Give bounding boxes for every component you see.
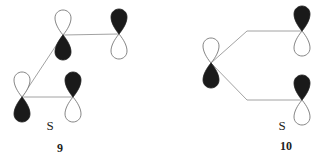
white-lobe-icon	[203, 38, 219, 63]
figure-number-9: 9	[57, 141, 63, 156]
orbital-diagram	[0, 0, 323, 164]
bond-e-g	[211, 63, 302, 100]
white-lobe-icon	[14, 72, 30, 97]
black-lobe-icon	[14, 97, 30, 122]
black-lobe-icon	[65, 72, 81, 97]
figure-10-bonds	[211, 31, 302, 100]
black-lobe-icon	[294, 6, 310, 31]
white-lobe-icon	[294, 100, 310, 125]
white-lobe-icon	[294, 31, 310, 56]
bond-a-b	[63, 34, 119, 35]
figure-number-10: 10	[280, 139, 292, 154]
white-lobe-icon	[65, 97, 81, 122]
black-lobe-icon	[111, 9, 127, 34]
white-lobe-icon	[111, 34, 127, 59]
white-lobe-icon	[55, 10, 71, 35]
black-lobe-icon	[294, 75, 310, 100]
orbital-e	[203, 38, 219, 88]
symmetry-label-10: S	[278, 118, 285, 134]
black-lobe-icon	[203, 63, 219, 88]
bond-e-f	[211, 31, 302, 63]
symmetry-label-9: S	[46, 118, 53, 134]
black-lobe-icon	[55, 35, 71, 60]
